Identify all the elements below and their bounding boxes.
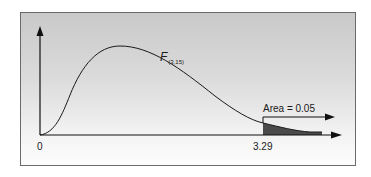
curve-label: F(3,15) bbox=[160, 50, 184, 65]
y-axis-arrow-icon bbox=[37, 26, 44, 36]
area-annotation: Area = 0.05 bbox=[263, 103, 315, 114]
x-axis-arrow-icon bbox=[331, 132, 342, 139]
curve-label-df: (3,15) bbox=[168, 59, 184, 65]
curve-label-name: F bbox=[160, 50, 167, 64]
area-arrow-icon bbox=[325, 114, 335, 121]
x-tick-critical: 3.29 bbox=[253, 141, 272, 152]
f-distribution-plot bbox=[0, 0, 371, 177]
x-tick-origin: 0 bbox=[37, 141, 43, 152]
